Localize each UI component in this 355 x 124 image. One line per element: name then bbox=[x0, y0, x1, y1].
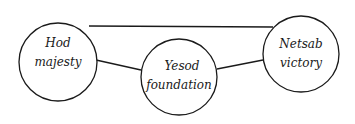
node-label-meaning: majesty bbox=[34, 55, 81, 69]
edge-hod-yesod bbox=[96, 60, 141, 70]
node-hod: Hod majesty bbox=[19, 23, 97, 101]
node-label-meaning: foundation bbox=[145, 78, 212, 92]
edge-yesod-netsah bbox=[217, 60, 263, 69]
node-netsah: Netsab victory bbox=[263, 16, 339, 92]
node-label-name: Hod bbox=[44, 36, 71, 50]
sefirot-diagram: Hod majesty Yesod foundation Netsab vict… bbox=[0, 0, 355, 124]
node-circle bbox=[141, 39, 217, 115]
node-label-name: Yesod bbox=[164, 59, 199, 73]
node-label-meaning: victory bbox=[280, 56, 322, 70]
node-label-name: Netsab bbox=[278, 37, 322, 51]
node-yesod: Yesod foundation bbox=[141, 39, 217, 115]
edge-hod-netsah bbox=[89, 26, 273, 27]
node-circle bbox=[263, 16, 339, 92]
